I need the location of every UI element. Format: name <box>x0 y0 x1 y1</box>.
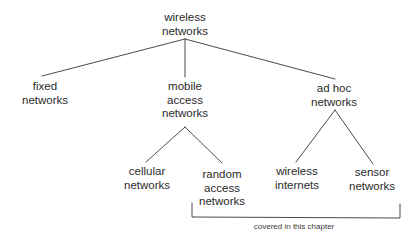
edge-mobile-random <box>185 127 222 163</box>
node-wireless-internets: wireless internets <box>275 165 319 192</box>
node-label-line: wireless <box>162 11 208 25</box>
node-ad-hoc-networks: ad hoc networks <box>311 82 357 109</box>
edge-mobile-cellular <box>146 127 185 162</box>
node-fixed-networks: fixed networks <box>22 80 68 107</box>
node-wireless-networks: wireless networks <box>162 11 208 38</box>
node-label-line: cellular <box>124 165 170 179</box>
node-random-access-networks: random access networks <box>199 168 245 209</box>
edge-adhoc-sensor <box>335 110 373 164</box>
node-cellular-networks: cellular networks <box>124 165 170 192</box>
network-taxonomy-diagram: wireless networks fixed networks mobile … <box>0 0 420 242</box>
edge-root-adhoc <box>185 39 335 79</box>
node-label-line: networks <box>22 94 68 108</box>
node-label-line: internets <box>275 179 319 193</box>
edge-adhoc-wireless-internets <box>296 110 335 162</box>
edge-root-fixed <box>42 39 185 76</box>
node-label-line: access <box>199 182 245 196</box>
node-label-line: wireless <box>275 165 319 179</box>
node-label-line: ad hoc <box>311 82 357 96</box>
node-mobile-access-networks: mobile access networks <box>162 80 208 121</box>
node-label-line: sensor <box>349 166 395 180</box>
node-label-line: networks <box>311 96 357 110</box>
node-label-line: access <box>162 94 208 108</box>
node-label-line: networks <box>162 25 208 39</box>
node-sensor-networks: sensor networks <box>349 166 395 193</box>
node-label-line: fixed <box>22 80 68 94</box>
node-label-line: networks <box>162 107 208 121</box>
bracket-caption: covered in this chapter <box>254 222 335 232</box>
node-label-line: random <box>199 168 245 182</box>
node-label-line: mobile <box>162 80 208 94</box>
node-label-line: networks <box>199 195 245 209</box>
node-label-line: networks <box>349 180 395 194</box>
node-label-line: networks <box>124 179 170 193</box>
